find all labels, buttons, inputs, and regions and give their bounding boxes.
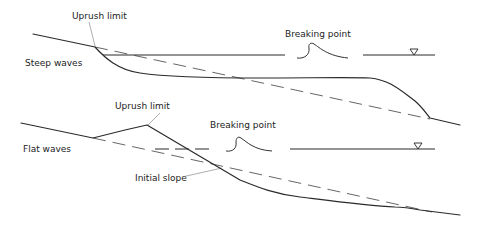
steep-waves-label: Steep waves	[25, 58, 83, 68]
flat-breaking-wave	[226, 137, 272, 151]
flat-breaking-point-label: Breaking point	[210, 120, 276, 130]
initial-slope-label: Initial slope	[135, 173, 187, 183]
steep-waves-panel: Steep waves Uprush limit Breaking point	[25, 11, 460, 125]
beach-profile-diagram: Steep waves Uprush limit Breaking point …	[0, 0, 482, 227]
flat-waves-panel: Flat waves Uprush limit Breaking point I…	[21, 101, 460, 215]
steep-breaking-point-label: Breaking point	[285, 29, 351, 39]
flat-uprush-leader	[148, 113, 160, 125]
steep-breaking-wave	[297, 43, 348, 58]
flat-waves-label: Flat waves	[23, 144, 71, 154]
flat-beach-profile	[21, 123, 460, 215]
steep-water-level-icon	[410, 49, 418, 55]
flat-uprush-limit-label: Uprush limit	[115, 101, 170, 111]
steep-uprush-limit-label: Uprush limit	[72, 11, 127, 21]
steep-uprush-leader	[89, 22, 95, 46]
initial-slope-leader	[182, 168, 222, 177]
flat-water-level-icon	[414, 143, 422, 149]
